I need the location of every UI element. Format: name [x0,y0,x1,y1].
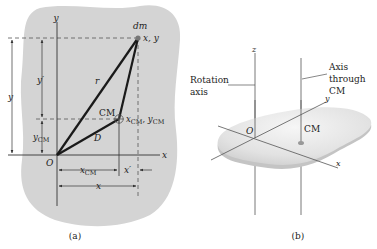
rotation-axis-label-2: axis [190,87,208,97]
cm-b-label: CM [304,124,320,134]
dim-xprime-label: x′ [124,165,131,175]
cm-dot [298,141,304,145]
d-label: D [93,133,101,143]
cm-axis-label-3: CM [329,86,345,96]
y-axis-b-label: y [324,94,330,103]
cm-axis-leader [302,74,327,79]
cm-axis-label-2: through [329,74,366,84]
dm-label: dm [133,21,147,31]
figure-a: y x O dm x, y r CM D xCM, yCM y y′ yCM x… [7,5,180,241]
cm-axis-label-1: Axis [328,62,348,72]
origin-b-label: O [246,126,254,136]
y-axis-label: y [52,13,59,23]
cm-label: CM [99,108,115,118]
diagram-canvas: y x O dm x, y r CM D xCM, yCM y y′ yCM x… [0,0,377,249]
origin-label: O [46,158,54,168]
x-axis-label: x [162,150,167,160]
figure-b: z Rotation axis Axis through CM y O CM x… [190,45,371,241]
z-axis-label: z [251,45,257,54]
plate-top [218,107,372,165]
dm-coords-label: x, y [143,33,160,43]
caption-b: (b) [292,231,305,241]
caption-a: (a) [69,231,81,241]
dim-y-label: y [7,92,14,102]
dim-yprime-label: y′ [36,75,44,85]
rotation-axis-label-1: Rotation [190,75,229,85]
r-label: r [95,76,100,86]
x-axis-b-label: x [336,159,341,168]
dm-point [135,35,140,40]
dim-x-label: x [96,181,101,191]
